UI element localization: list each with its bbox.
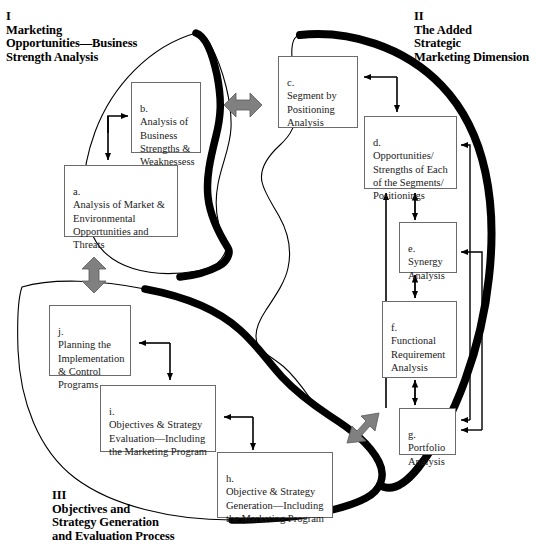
node-i-text: i. Objectives & Strategy Evaluation—Incl… <box>109 405 209 458</box>
node-a-text: a. Analysis of Market & Environmental Op… <box>73 185 171 251</box>
node-d-text: d. Opportunities/ Strengths of Each of t… <box>373 136 450 202</box>
node-box-d[interactable]: d. Opportunities/ Strengths of Each of t… <box>364 116 457 189</box>
node-box-h[interactable]: h. Objective & Strategy Generation—Inclu… <box>217 452 333 518</box>
node-box-j[interactable]: j. Planning the Implementation & Control… <box>49 305 131 376</box>
node-g-text: g. Portfolio Analysis <box>408 428 449 468</box>
node-box-c[interactable]: c. Segment by Positioning Analysis <box>278 56 358 128</box>
diagram-canvas: I Marketing Opportunities—Business Stren… <box>0 0 555 559</box>
node-box-g[interactable]: g. Portfolio Analysis <box>399 408 456 455</box>
node-b-text: b. Analysis of Business Strengths & Weak… <box>140 102 194 168</box>
section-heading-i: I Marketing Opportunities—Business Stren… <box>6 10 186 64</box>
node-f-text: f. Functional Requirement Analysis <box>391 321 450 374</box>
node-c-text: c. Segment by Positioning Analysis <box>287 76 351 129</box>
node-j-text: j. Planning the Implementation & Control… <box>58 325 124 391</box>
node-box-b[interactable]: b. Analysis of Business Strengths & Weak… <box>131 82 201 153</box>
node-box-e[interactable]: e. Synergy Analysis <box>399 222 457 273</box>
node-h-text: h. Objective & Strategy Generation—Inclu… <box>226 472 326 525</box>
node-box-f[interactable]: f. Functional Requirement Analysis <box>382 301 457 378</box>
section-heading-ii: II The Added Strategic Marketing Dimensi… <box>414 10 554 64</box>
node-e-text: e. Synergy Analysis <box>408 242 450 282</box>
